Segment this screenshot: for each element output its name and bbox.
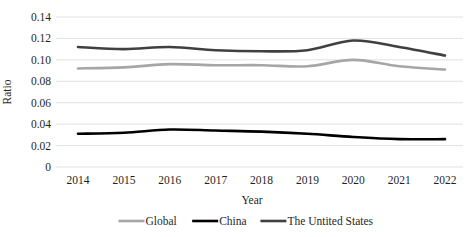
series-line-global	[78, 60, 445, 70]
gridlines-group	[56, 17, 463, 167]
x-tick-label-2022: 2022	[434, 174, 457, 186]
legend-label-global[interactable]: Global	[145, 215, 176, 227]
y-tick-label: 0.08	[31, 75, 51, 87]
x-tick-label-2021: 2021	[388, 174, 411, 186]
y-tick-label: 0.04	[31, 118, 51, 130]
series-line-the-untited-states	[78, 41, 445, 56]
x-tick-label-2018: 2018	[250, 174, 273, 186]
y-tick-label: 0	[45, 161, 51, 173]
y-tick-label: 0.06	[31, 97, 51, 109]
x-tick-label-2017: 2017	[204, 174, 227, 186]
y-tick-label: 0.10	[31, 54, 51, 66]
line-chart: 00.020.040.060.080.100.120.14 2014201520…	[0, 0, 471, 237]
x-tick-label-2019: 2019	[296, 174, 319, 186]
legend-label-china[interactable]: China	[219, 215, 246, 227]
x-axis-tick-labels: 201420152016201720182019202020212022	[67, 174, 457, 186]
x-axis-title: Year	[241, 194, 262, 206]
y-tick-label: 0.12	[31, 32, 51, 44]
x-tick-label-2014: 2014	[67, 174, 90, 186]
series-line-china	[78, 129, 445, 139]
legend: GlobalChinaThe Untited States	[118, 215, 373, 227]
y-axis-tick-labels: 00.020.040.060.080.100.120.14	[31, 11, 51, 173]
y-tick-label: 0.14	[31, 11, 51, 23]
y-axis-title: Ratio	[1, 79, 13, 104]
x-tick-label-2020: 2020	[342, 174, 365, 186]
chart-canvas: 00.020.040.060.080.100.120.14 2014201520…	[0, 0, 471, 237]
x-tick-label-2016: 2016	[158, 174, 181, 186]
y-tick-label: 0.02	[31, 140, 51, 152]
legend-label-the-untited-states[interactable]: The Untited States	[287, 215, 373, 227]
x-tick-label-2015: 2015	[112, 174, 135, 186]
